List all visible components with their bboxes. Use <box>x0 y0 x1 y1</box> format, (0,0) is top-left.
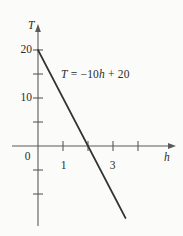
x-tick-label-1: 1 <box>58 160 69 172</box>
x-tick-label-3: 3 <box>107 160 118 172</box>
equation-intercept: 20 <box>118 68 130 80</box>
equation-equals: = <box>71 68 78 80</box>
equation-lhs: T <box>61 68 68 80</box>
y-tick-label-20: 20 <box>11 44 32 56</box>
origin-label: 0 <box>22 151 33 163</box>
equation-slope: −10 <box>80 68 99 80</box>
coordinate-plane <box>0 0 183 236</box>
graph-figure: 20 10 0 1 3 T h T = −10h + 20 <box>0 0 183 236</box>
equation-annotation: T = −10h + 20 <box>61 69 130 81</box>
y-tick-label-10: 10 <box>11 92 32 104</box>
y-axis-label: T <box>28 20 34 32</box>
x-axis-label: h <box>164 152 170 164</box>
equation-plus: + <box>108 68 115 80</box>
x-axis-arrow-icon <box>168 143 176 149</box>
equation-variable: h <box>99 68 105 80</box>
y-axis-arrow-icon <box>35 24 41 32</box>
